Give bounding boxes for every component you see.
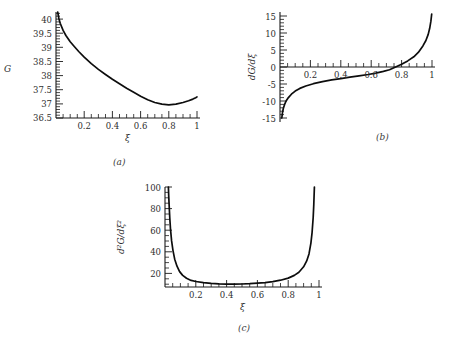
panel-c: 100 80 60 40 20 0.2 0.4 0.6 0.8 1 d²G/dξ… bbox=[90, 175, 380, 345]
panel-c-ytick-60: 60 bbox=[130, 226, 161, 236]
panel-c-ytick-40: 40 bbox=[130, 247, 161, 257]
figure-root: 40 39.5 39 38.5 38 37.5 37 36.5 0.2 0.4 … bbox=[0, 0, 459, 345]
panel-c-ytick-80: 80 bbox=[130, 204, 161, 214]
panel-a-x-minor-ticks bbox=[63, 114, 190, 118]
panel-b: 15 10 5 0 -5 -10 -15 0.2 0.4 0.6 0.8 1 d… bbox=[230, 0, 459, 175]
panel-c-plot bbox=[90, 175, 380, 345]
panel-a-y-major-ticks bbox=[56, 19, 63, 118]
panel-a-ytick-39: 39 bbox=[22, 43, 52, 53]
panel-b-ytick-15: 15 bbox=[252, 12, 276, 22]
panel-c-xtick-0.6: 0.6 bbox=[247, 290, 267, 300]
panel-a-xtick-0.2: 0.2 bbox=[74, 121, 94, 131]
panel-b-xtick-0.8: 0.8 bbox=[392, 70, 412, 80]
panel-a-xtick-0.6: 0.6 bbox=[131, 121, 151, 131]
panel-b-ytick--15: -15 bbox=[248, 114, 276, 124]
panel-a-y-axis-title: G bbox=[4, 64, 11, 74]
panel-a-ytick-39.5: 39.5 bbox=[18, 29, 52, 39]
panel-c-x-axis-title: ξ bbox=[240, 302, 245, 312]
panel-a-ytick-37: 37 bbox=[22, 99, 52, 109]
panel-c-ytick-20: 20 bbox=[130, 269, 161, 279]
panel-b-xtick-0.6: 0.6 bbox=[361, 70, 381, 80]
panel-c-y-axis-title: d²G/dξ² bbox=[116, 204, 126, 270]
panel-b-xtick-0.4: 0.4 bbox=[331, 70, 351, 80]
panel-b-y-axis-title: dG/dξ bbox=[247, 37, 257, 97]
panel-a-xtick-0.8: 0.8 bbox=[159, 121, 179, 131]
panel-a-xtick-1: 1 bbox=[187, 121, 207, 131]
panel-a-x-major-ticks bbox=[84, 111, 197, 118]
panel-a-ytick-40: 40 bbox=[22, 15, 52, 25]
panel-c-xtick-0.2: 0.2 bbox=[186, 290, 206, 300]
panel-b-xtick-1: 1 bbox=[422, 70, 442, 80]
panel-a-x-axis-title: ξ bbox=[125, 133, 130, 143]
panel-c-xtick-0.8: 0.8 bbox=[278, 290, 298, 300]
panel-c-xtick-1: 1 bbox=[309, 290, 329, 300]
panel-a-ytick-36.5: 36.5 bbox=[18, 113, 52, 123]
panel-b-xtick-0.2: 0.2 bbox=[300, 70, 320, 80]
panel-c-ytick-100: 100 bbox=[130, 183, 161, 193]
panel-c-curve bbox=[168, 187, 314, 284]
panel-b-ytick--10: -10 bbox=[248, 97, 276, 107]
panel-b-x-major-ticks bbox=[310, 60, 432, 67]
panel-a-curve bbox=[58, 12, 197, 105]
panel-a-ytick-37.5: 37.5 bbox=[18, 85, 52, 95]
panel-a-xtick-0.4: 0.4 bbox=[102, 121, 122, 131]
panel-c-label: (c) bbox=[238, 323, 250, 333]
panel-a-ytick-38.5: 38.5 bbox=[18, 57, 52, 67]
panel-a: 40 39.5 39 38.5 38 37.5 37 36.5 0.2 0.4 … bbox=[0, 0, 215, 175]
panel-b-label: (b) bbox=[376, 132, 389, 142]
panel-c-xtick-0.4: 0.4 bbox=[217, 290, 237, 300]
panel-a-ytick-38: 38 bbox=[22, 71, 52, 81]
panel-a-y-minor-ticks bbox=[56, 13, 60, 115]
panel-a-label: (a) bbox=[113, 157, 125, 167]
